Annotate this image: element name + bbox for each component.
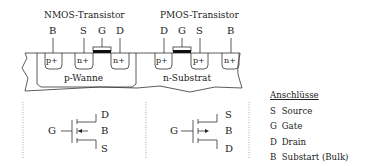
- nmos-symbol-d: D: [101, 109, 109, 120]
- n-substrate-label: n-Substrat: [163, 73, 211, 83]
- legend-item-drain: D Drain: [270, 135, 348, 151]
- legend-item-source: S Source: [270, 104, 348, 120]
- nmos-region-p-plus: p+: [46, 56, 58, 65]
- legend-item-bulk: B Substart (Bulk): [270, 150, 348, 166]
- pmos-gate-oxide: [173, 50, 191, 53]
- p-well-label: p-Wanne: [64, 73, 103, 83]
- pmos-symbol-g: G: [170, 125, 178, 136]
- nmos-gate-oxide: [93, 50, 111, 53]
- pmos-terminal-d: D: [160, 25, 168, 36]
- nmos-terminal-d: D: [116, 25, 124, 36]
- nmos-symbol-s: S: [101, 143, 108, 154]
- pmos-symbol: [181, 114, 217, 149]
- pmos-terminal-g: G: [178, 25, 186, 36]
- nmos-region-n-plus-d: n+: [113, 56, 125, 65]
- nmos-bulk-arrow-icon: [78, 129, 82, 133]
- legend: Anschlüsse S Source G Gate D Drain B Sub…: [270, 88, 348, 166]
- pmos-bulk-arrow-icon: [205, 129, 209, 133]
- nmos-region-n-plus-s: n+: [77, 56, 89, 65]
- nmos-symbol-g: G: [48, 125, 56, 136]
- nmos-symbol-b: B: [101, 125, 108, 136]
- pmos-terminal-b: B: [227, 25, 234, 36]
- legend-item-gate: G Gate: [270, 119, 348, 135]
- nmos-symbol: [61, 114, 96, 149]
- pmos-symbol-d: D: [225, 143, 233, 154]
- nmos-terminal-s: S: [80, 25, 87, 36]
- pmos-symbol-b: B: [225, 125, 232, 136]
- nmos-terminal-b: B: [49, 25, 56, 36]
- legend-title: Anschlüsse: [270, 88, 348, 104]
- pmos-region-p-plus-d: p+: [156, 56, 168, 65]
- pmos-region-p-plus-s: p+: [193, 56, 205, 65]
- nmos-title: NMOS-Transistor: [44, 10, 125, 20]
- pmos-symbol-s: S: [225, 109, 232, 120]
- pmos-title: PMOS-Transistor: [160, 10, 239, 20]
- mos-transistor-diagram: NMOS-Transistor PMOS-Transistor B S G D …: [0, 0, 371, 166]
- pmos-region-n-plus: n+: [224, 56, 236, 65]
- nmos-terminal-g: G: [98, 25, 106, 36]
- pmos-terminal-s: S: [196, 25, 203, 36]
